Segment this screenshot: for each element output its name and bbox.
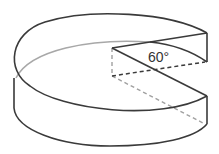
hidden-bottom-radius [112,76,205,124]
bottom-outer-arc [14,78,207,146]
top-outer-arc [14,14,207,111]
hidden-top-arc [16,41,150,78]
pie-cylinder-diagram: 60° [0,0,219,154]
angle-label: 60° [148,49,169,65]
